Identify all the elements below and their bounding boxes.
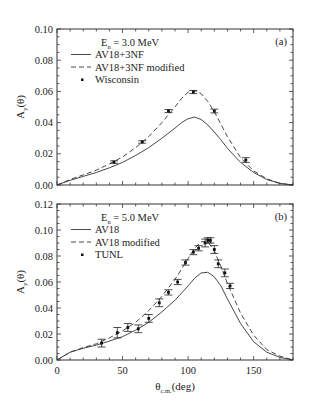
y-tick-label: 0.00: [35, 180, 53, 191]
legend-marker: [81, 79, 84, 82]
data-point: [167, 110, 170, 113]
x-tick-label: 0: [54, 365, 59, 376]
y-tick-label: 0.04: [35, 117, 54, 128]
data-point: [116, 331, 119, 334]
legend-marker: [81, 254, 84, 257]
legend-label: AV18: [95, 224, 119, 235]
legend-label: Wisconsin: [95, 74, 140, 85]
legend-label: TUNL: [95, 249, 123, 260]
plot-frame: [57, 204, 293, 360]
panel-b-chart: 0.000.020.040.060.080.100.12050100150Ay(…: [14, 199, 293, 395]
data-point: [113, 161, 116, 164]
data-point: [244, 159, 247, 162]
y-tick-label: 0.10: [35, 225, 53, 236]
solid-curve: [57, 117, 293, 185]
legend-label: AV18+3NF modified: [95, 62, 185, 73]
x-tick-label: 100: [180, 365, 196, 376]
panel-label: (a): [275, 36, 287, 48]
legend-label: AV18 modified: [95, 237, 161, 248]
y-tick-label: 0.08: [35, 251, 53, 262]
data-point: [167, 291, 170, 294]
x-axis-label: θc.m.(deg): [155, 380, 195, 394]
data-point: [213, 110, 216, 113]
y-tick-label: 0.02: [35, 329, 53, 340]
data-point: [137, 327, 140, 330]
figure: 0.000.020.040.060.080.10Ay(θ)(a)En = 3.0…: [0, 0, 310, 406]
y-tick-label: 0.00: [35, 355, 53, 366]
y-axis-label: Ay(θ): [14, 95, 29, 119]
data-point: [100, 342, 103, 345]
legend-label: AV18+3NF: [95, 49, 144, 60]
data-point: [217, 262, 220, 265]
y-tick-label: 0.06: [35, 277, 53, 288]
y-tick-label: 0.08: [35, 55, 53, 66]
data-point: [126, 326, 129, 329]
data-point: [192, 251, 195, 254]
data-point: [141, 141, 144, 144]
panel-label: (b): [275, 211, 288, 223]
data-point: [192, 91, 195, 94]
data-point: [229, 285, 232, 288]
y-tick-label: 0.10: [35, 24, 53, 35]
data-point: [206, 239, 209, 242]
y-tick-label: 0.04: [35, 303, 54, 314]
x-tick-label: 150: [246, 365, 262, 376]
panel-a-chart: 0.000.020.040.060.080.10Ay(θ)(a)En = 3.0…: [14, 24, 293, 191]
solid-curve: [57, 272, 293, 360]
y-axis-label: Ay(θ): [14, 270, 29, 294]
data-point: [223, 272, 226, 275]
dashed-curve: [57, 91, 293, 185]
data-point: [213, 248, 216, 251]
data-point: [147, 317, 150, 320]
data-point: [176, 281, 179, 284]
data-point: [184, 261, 187, 264]
data-point: [209, 239, 212, 242]
dashed-curve: [57, 242, 293, 360]
y-tick-label: 0.12: [35, 199, 53, 210]
y-tick-label: 0.06: [35, 86, 53, 97]
data-point: [197, 247, 200, 250]
x-tick-label: 50: [117, 365, 128, 376]
y-tick-label: 0.02: [35, 148, 53, 159]
data-point: [158, 301, 161, 304]
